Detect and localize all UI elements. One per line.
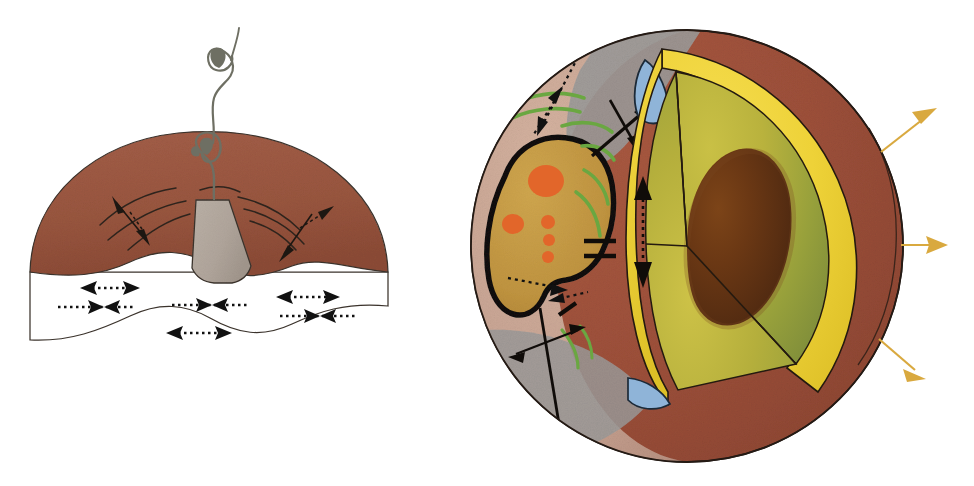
vent-spot-small-2 [543, 234, 555, 246]
figure-svg: Planetary interior and surface volcanism… [0, 0, 974, 486]
vent-spot-small-3 [542, 251, 554, 263]
vent-spot-small-1 [541, 215, 555, 229]
figure-root: Planetary interior and surface volcanism… [0, 0, 974, 486]
vent-spot-medium [502, 214, 524, 234]
vent-spot-large [528, 165, 564, 197]
